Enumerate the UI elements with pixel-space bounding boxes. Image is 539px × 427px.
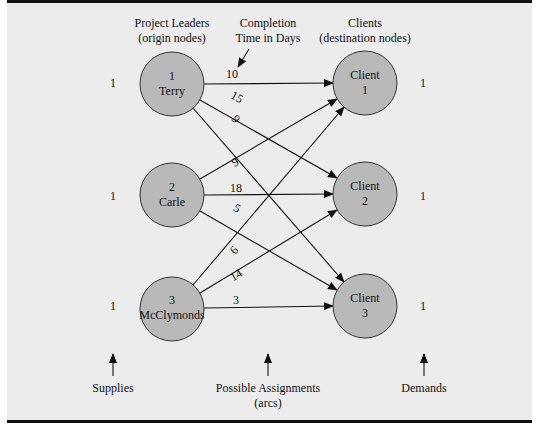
origin-node-3: 3 McClymonds xyxy=(139,277,205,341)
arc-3-3 xyxy=(204,306,333,308)
demands-label: Demands xyxy=(401,381,447,395)
destination-node-1: Client 1 xyxy=(333,51,397,115)
svg-text:Completion: Completion xyxy=(240,16,297,30)
supplies-label: Supplies xyxy=(92,381,134,395)
completion-time-header: Completion Time in Days xyxy=(236,16,301,67)
footer: Supplies Possible Assignments (arcs) Dem… xyxy=(92,354,447,410)
svg-text:2: 2 xyxy=(169,180,175,194)
arc-label-3-2: 14 xyxy=(227,266,244,284)
arcs xyxy=(193,83,344,308)
demand-1: 1 xyxy=(420,76,426,90)
svg-text:Project Leaders: Project Leaders xyxy=(135,16,210,30)
arc-label-1-1: 10 xyxy=(226,67,238,81)
supply-1: 1 xyxy=(110,76,116,90)
origins-header: Project Leaders (origin nodes) xyxy=(135,16,210,45)
pointer-arrow-icon xyxy=(238,49,249,67)
assignment-network: Project Leaders (origin nodes) Completio… xyxy=(0,0,539,427)
supply-3: 1 xyxy=(110,299,116,313)
svg-text:Clients: Clients xyxy=(348,16,382,30)
arc-label-1-2: 15 xyxy=(228,88,245,106)
arc-label-3-1: 6 xyxy=(227,243,242,257)
destination-node-3: Client 3 xyxy=(333,274,397,338)
assignments-label: Possible Assignments xyxy=(216,381,321,395)
arc-label-2-2: 18 xyxy=(230,181,242,195)
origin-node-1: 1 Terry xyxy=(140,52,204,116)
supplies-column: 1 1 1 xyxy=(110,76,116,313)
svg-text:Time in Days: Time in Days xyxy=(236,31,301,45)
svg-text:(destination nodes): (destination nodes) xyxy=(319,31,411,45)
svg-text:Client: Client xyxy=(350,68,380,82)
arc-1-1 xyxy=(204,83,333,84)
origin-node-2: 2 Carle xyxy=(140,163,204,227)
demand-2: 1 xyxy=(420,189,426,203)
demands-column: 1 1 1 xyxy=(420,76,426,313)
svg-text:3: 3 xyxy=(169,293,175,307)
svg-text:(origin nodes): (origin nodes) xyxy=(138,31,206,45)
supply-2: 1 xyxy=(110,189,116,203)
arc-labels: 10 15 9 9 18 5 6 14 3 xyxy=(226,67,246,307)
svg-text:Client: Client xyxy=(350,179,380,193)
destinations-header: Clients (destination nodes) xyxy=(319,16,411,45)
svg-text:Carle: Carle xyxy=(159,195,185,209)
svg-text:Terry: Terry xyxy=(159,84,185,98)
arc-2-2 xyxy=(204,194,333,195)
demand-3: 1 xyxy=(420,299,426,313)
assignments-sublabel: (arcs) xyxy=(254,396,281,410)
svg-text:1: 1 xyxy=(362,83,368,97)
destination-node-2: Client 2 xyxy=(333,162,397,226)
svg-text:1: 1 xyxy=(169,69,175,83)
arc-label-3-3: 3 xyxy=(233,293,239,307)
svg-text:Client: Client xyxy=(350,291,380,305)
arc-label-2-3: 5 xyxy=(231,200,243,215)
svg-text:McClymonds: McClymonds xyxy=(139,308,205,322)
svg-text:2: 2 xyxy=(362,194,368,208)
svg-text:3: 3 xyxy=(362,306,368,320)
